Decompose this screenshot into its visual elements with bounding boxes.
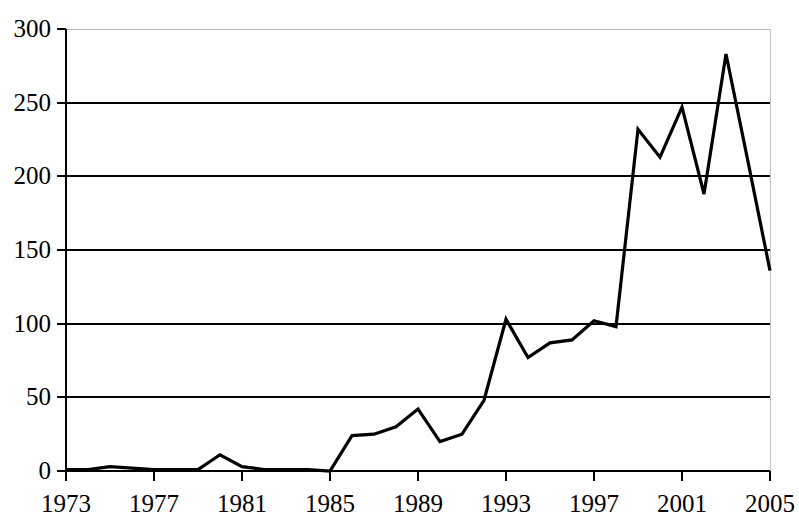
x-axis-ticks — [66, 471, 770, 481]
x-tick-label-1989: 1989 — [373, 491, 463, 516]
y-tick-label-100: 100 — [14, 311, 52, 336]
y-tick-label-50: 50 — [26, 384, 51, 409]
y-axis-ticks — [57, 29, 66, 471]
x-tick-label-2005: 2005 — [725, 491, 799, 516]
x-tick-label-2001: 2001 — [637, 491, 727, 516]
x-tick-label-1977: 1977 — [109, 491, 199, 516]
x-tick-label-1993: 1993 — [461, 491, 551, 516]
x-tick-label-1973: 1973 — [21, 491, 111, 516]
series-line-count — [66, 54, 770, 471]
y-tick-label-0: 0 — [39, 458, 52, 483]
x-tick-label-1985: 1985 — [285, 491, 375, 516]
y-tick-label-300: 300 — [14, 16, 52, 41]
y-tick-label-150: 150 — [14, 237, 52, 262]
x-tick-label-1997: 1997 — [549, 491, 639, 516]
data-series-line — [66, 54, 770, 471]
x-tick-label-1981: 1981 — [197, 491, 287, 516]
gridlines — [66, 29, 770, 397]
y-tick-label-200: 200 — [14, 163, 52, 188]
y-tick-label-250: 250 — [14, 90, 52, 115]
